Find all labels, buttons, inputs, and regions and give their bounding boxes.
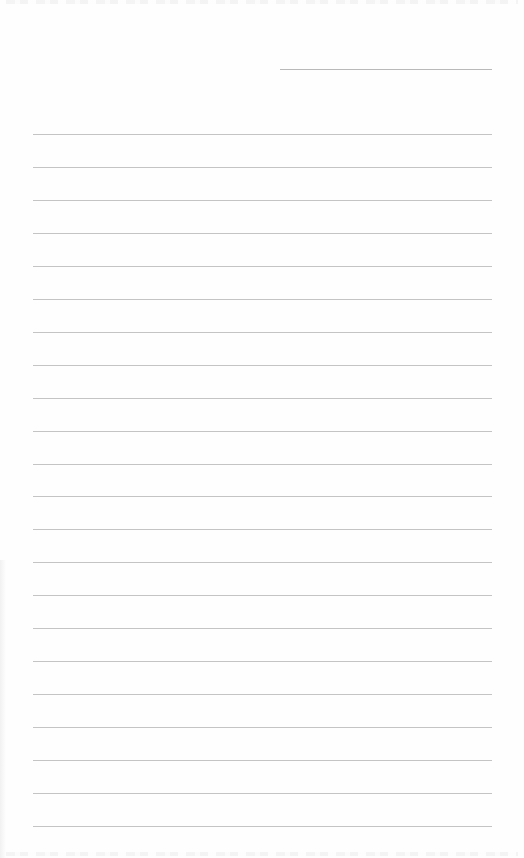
ruled-line <box>33 826 492 827</box>
ruled-line <box>33 464 492 465</box>
ruled-line <box>33 431 492 432</box>
ruled-line <box>33 760 492 761</box>
top-edge-bleed-through <box>6 0 518 4</box>
ruled-line <box>33 332 492 333</box>
ruled-line <box>33 661 492 662</box>
ruled-line <box>33 529 492 530</box>
ruled-line <box>33 266 492 267</box>
ruled-line <box>33 134 492 135</box>
left-edge-shadow <box>0 560 6 858</box>
ruled-line <box>33 233 492 234</box>
ruled-line <box>33 793 492 794</box>
lined-paper-page <box>0 0 524 858</box>
ruled-line <box>33 496 492 497</box>
ruled-line <box>33 727 492 728</box>
ruled-line <box>33 365 492 366</box>
ruled-line <box>33 562 492 563</box>
ruled-line <box>33 299 492 300</box>
date-line <box>280 69 492 70</box>
bottom-edge-bleed-through <box>6 852 518 856</box>
ruled-line <box>33 628 492 629</box>
ruled-line <box>33 200 492 201</box>
ruled-line <box>33 694 492 695</box>
ruled-line <box>33 595 492 596</box>
ruled-line <box>33 398 492 399</box>
ruled-line <box>33 167 492 168</box>
